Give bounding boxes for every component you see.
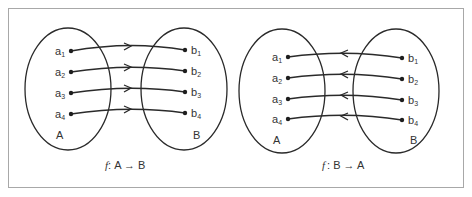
figure-frame <box>9 9 464 188</box>
dot-b3 <box>400 98 404 102</box>
dot-a1 <box>69 49 73 53</box>
dot-a1 <box>286 55 290 59</box>
dot-b4 <box>183 111 187 115</box>
dot-a2 <box>286 76 290 80</box>
dot-b1 <box>183 48 187 52</box>
caption-f-b-to-a: f:B → A <box>322 159 365 171</box>
dot-b1 <box>400 56 404 60</box>
set-name-a: A <box>273 134 281 146</box>
caption-f-a-to-b: f:A → B <box>105 159 145 171</box>
dot-b4 <box>400 118 404 122</box>
set-name-b: B <box>410 134 417 146</box>
set-name-a: A <box>56 129 64 141</box>
set-name-b: B <box>193 129 200 141</box>
dot-b3 <box>183 90 187 94</box>
function-mapping-figure: a1 a2 a3 a4 b1 b2 b3 b4 A B f:A → B <box>0 0 472 197</box>
dot-a3 <box>286 97 290 101</box>
dot-a3 <box>69 91 73 95</box>
dot-b2 <box>183 69 187 73</box>
dot-a4 <box>69 112 73 116</box>
dot-a2 <box>69 70 73 74</box>
dot-a4 <box>286 117 290 121</box>
dot-b2 <box>400 77 404 81</box>
